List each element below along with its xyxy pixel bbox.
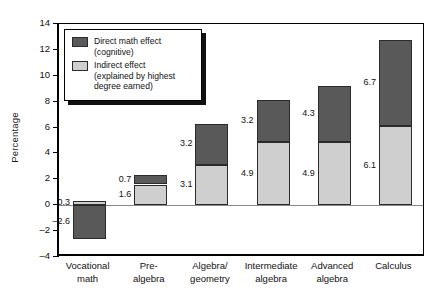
bar-value-direct: 3.2 <box>146 138 192 148</box>
bar-value-direct: –2.6 <box>24 216 70 226</box>
bar-segment-direct <box>379 40 412 127</box>
x-axis-categories: VocationalmathPre-algebraAlgebra/geometr… <box>57 260 424 302</box>
bar-group: 4.93.2 <box>243 24 304 254</box>
y-tick-label: 4 <box>45 146 50 157</box>
bar-segment-direct <box>195 124 228 165</box>
x-axis-category-label: Calculus <box>355 260 432 273</box>
bar-segment-indirect <box>318 142 351 205</box>
bar-segment-direct <box>73 205 106 239</box>
stacked-bar-chart: Percentage 14121086420–2–4 0.3–2.61.60.7… <box>0 0 438 305</box>
bar-value-direct: 0.7 <box>85 174 131 184</box>
legend-label-indirect: Indirect effect (explained by highest de… <box>94 60 175 92</box>
y-tick-label: 14 <box>39 17 50 28</box>
bar-value-indirect: 0.3 <box>24 197 70 207</box>
bar-value-direct: 4.3 <box>269 108 315 118</box>
y-tick-label: 8 <box>45 95 50 106</box>
legend-swatch-direct-icon <box>72 37 88 47</box>
bar-value-indirect: 1.6 <box>85 189 131 199</box>
y-tick-label: 2 <box>45 172 50 183</box>
bar-value-indirect: 6.1 <box>330 160 376 170</box>
bar-value-direct: 6.7 <box>330 77 376 87</box>
bar-value-indirect: 4.9 <box>269 168 315 178</box>
legend-swatch-indirect-icon <box>72 61 88 71</box>
bar-group: 4.94.3 <box>304 24 365 254</box>
y-tick-mark <box>53 256 59 257</box>
legend-item-direct: Direct math effect (cognitive) <box>72 36 195 57</box>
bar-value-indirect: 4.9 <box>208 168 254 178</box>
y-tick-label: 10 <box>39 69 50 80</box>
y-tick-label: 6 <box>45 121 50 132</box>
bar-segment-indirect <box>379 126 412 205</box>
y-tick-label: 12 <box>39 43 50 54</box>
bar-value-direct: 3.2 <box>208 115 254 125</box>
bar-value-indirect: 3.1 <box>146 179 192 189</box>
bar-segment-direct <box>318 86 351 142</box>
bar-group: 6.16.7 <box>365 24 426 254</box>
bar-segment-direct <box>257 100 290 141</box>
legend-label-direct: Direct math effect (cognitive) <box>94 36 161 57</box>
chart-legend: Direct math effect (cognitive) Indirect … <box>64 29 202 101</box>
y-axis-label: Percentage <box>9 98 20 178</box>
legend-item-indirect: Indirect effect (explained by highest de… <box>72 60 195 92</box>
